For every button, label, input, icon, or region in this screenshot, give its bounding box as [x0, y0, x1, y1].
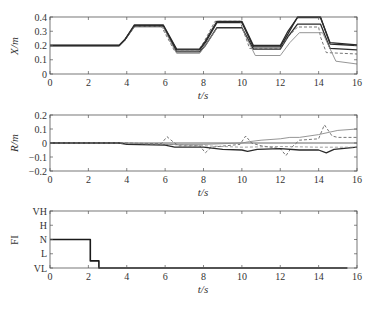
y-tick-label: 0 — [42, 69, 47, 80]
x-tick-label: 12 — [275, 174, 285, 185]
series-line-2 — [50, 129, 357, 144]
x-tick-label: 16 — [352, 77, 362, 88]
x-tick-label: 2 — [86, 174, 91, 185]
y-tick-label: 0.1 — [35, 54, 48, 65]
y-tick-label: 0.2 — [35, 40, 48, 51]
x-tick-label: 0 — [48, 174, 53, 185]
x-tick-label: 6 — [163, 271, 168, 282]
x-tick-label: 16 — [352, 174, 362, 185]
y-tick-label: −0.2 — [29, 166, 47, 177]
x-tick-label: 2 — [86, 271, 91, 282]
y-tick-label: N — [40, 234, 47, 245]
x-tick-label: 10 — [237, 174, 247, 185]
y-tick-label: H — [40, 220, 47, 231]
y-tick-label: 0.1 — [35, 124, 48, 135]
y-tick-label: 0.3 — [35, 26, 48, 37]
x-tick-label: 4 — [124, 174, 129, 185]
y-tick-label: 0 — [42, 138, 47, 149]
y-tick-label: L — [41, 248, 47, 259]
x-tick-label: 6 — [163, 77, 168, 88]
x-tick-label: 4 — [124, 271, 129, 282]
mid-ylabel: R/m — [8, 134, 20, 153]
top-xlabel: t/s — [198, 89, 208, 101]
middle-panel: 0246810121416−0.2−0.100.10.2 — [29, 110, 362, 186]
series-line-1 — [50, 240, 347, 269]
top-panel: 024681012141600.10.20.30.4 — [35, 12, 363, 89]
x-tick-label: 8 — [201, 174, 206, 185]
y-tick-label: −0.1 — [29, 152, 47, 163]
x-tick-label: 10 — [237, 77, 247, 88]
x-tick-label: 14 — [314, 174, 324, 185]
x-tick-label: 10 — [237, 271, 247, 282]
x-tick-label: 2 — [86, 77, 91, 88]
x-tick-label: 8 — [201, 77, 206, 88]
x-tick-label: 8 — [201, 271, 206, 282]
series-line-3 — [50, 21, 357, 54]
bot-ylabel: FI — [8, 235, 20, 245]
plot-frame — [50, 211, 357, 268]
chart-figure: 024681012141600.10.20.30.4 0246810121416… — [0, 0, 377, 309]
bottom-panel: 0246810121416VLLNHVH — [33, 206, 362, 283]
x-tick-label: 16 — [352, 271, 362, 282]
x-tick-label: 14 — [314, 271, 324, 282]
bot-xlabel: t/s — [198, 283, 208, 295]
x-tick-label: 4 — [124, 77, 129, 88]
mid-xlabel: t/s — [198, 186, 208, 198]
x-tick-label: 12 — [275, 77, 285, 88]
x-tick-label: 12 — [275, 271, 285, 282]
x-tick-label: 0 — [48, 271, 53, 282]
x-tick-label: 14 — [314, 77, 324, 88]
top-ylabel: X/m — [8, 37, 20, 56]
series-line-5 — [50, 18, 357, 49]
y-tick-label: 0.4 — [35, 12, 48, 23]
y-tick-label: VL — [34, 263, 47, 274]
x-tick-label: 0 — [48, 77, 53, 88]
y-tick-label: VH — [33, 206, 47, 217]
y-tick-label: 0.2 — [35, 110, 48, 121]
x-tick-label: 6 — [163, 174, 168, 185]
series-line-3 — [50, 125, 357, 156]
